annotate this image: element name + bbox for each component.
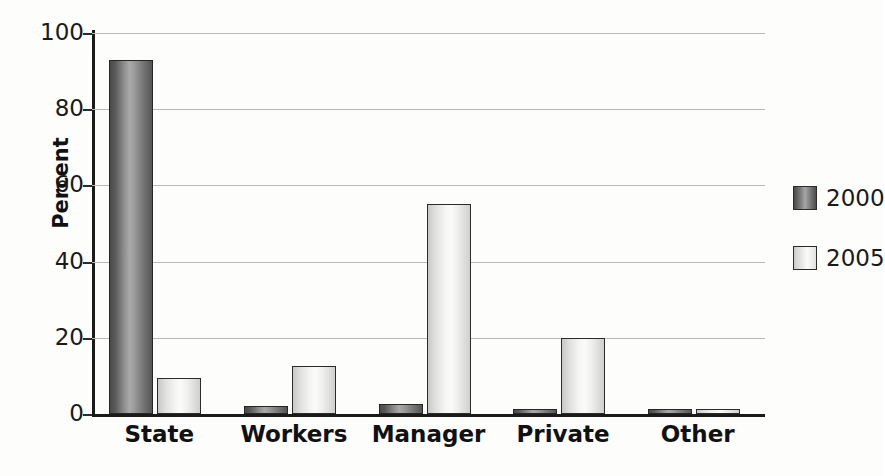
x-label-other: Other <box>630 421 765 447</box>
bar-private-2005[interactable] <box>561 338 605 414</box>
x-label-workers: Workers <box>227 421 362 447</box>
series-2005-swatch <box>793 246 817 270</box>
y-tick-mark-0 <box>83 414 92 416</box>
bar-private-2000[interactable] <box>513 409 557 414</box>
y-tick-label-100: 100 <box>28 21 84 44</box>
bar-workers-2000[interactable] <box>244 406 288 414</box>
x-label-state: State <box>92 421 227 447</box>
bar-group-state <box>109 33 201 414</box>
x-axis-line <box>92 414 765 417</box>
bar-state-2005[interactable] <box>157 378 201 414</box>
bar-other-2000[interactable] <box>648 409 692 414</box>
bar-group-private <box>513 33 605 414</box>
bar-manager-2000[interactable] <box>379 404 423 414</box>
y-axis-tick-labels: 020406080100 <box>28 0 84 476</box>
y-tick-mark-100 <box>83 33 92 35</box>
bar-group-other <box>648 33 740 414</box>
y-tick-mark-20 <box>83 338 92 340</box>
bar-state-2000[interactable] <box>109 60 153 414</box>
legend-item-2000[interactable]: 2000 <box>793 183 883 213</box>
legend-item-2005[interactable]: 2005 <box>793 243 883 273</box>
y-tick-label-80: 80 <box>28 97 84 120</box>
y-tick-mark-40 <box>83 262 92 264</box>
bar-other-2005[interactable] <box>696 409 740 414</box>
plot-area <box>92 33 765 414</box>
x-axis-category-labels: StateWorkersManagerPrivateOther <box>92 421 765 461</box>
series-2000-swatch <box>793 186 817 210</box>
y-tick-mark-60 <box>83 185 92 187</box>
legend-label-2000: 2000 <box>826 187 885 210</box>
bar-workers-2005[interactable] <box>292 366 336 414</box>
bar-group-workers <box>244 33 336 414</box>
y-tick-label-60: 60 <box>28 173 84 196</box>
x-label-private: Private <box>496 421 631 447</box>
y-tick-label-0: 0 <box>28 402 84 425</box>
legend-label-2005: 2005 <box>826 247 885 270</box>
y-tick-mark-80 <box>83 109 92 111</box>
y-tick-label-20: 20 <box>28 326 84 349</box>
bar-group-manager <box>379 33 471 414</box>
y-tick-label-40: 40 <box>28 250 84 273</box>
chart-legend: 20002005 <box>793 183 883 303</box>
x-label-manager: Manager <box>361 421 496 447</box>
bar-manager-2005[interactable] <box>427 204 471 414</box>
